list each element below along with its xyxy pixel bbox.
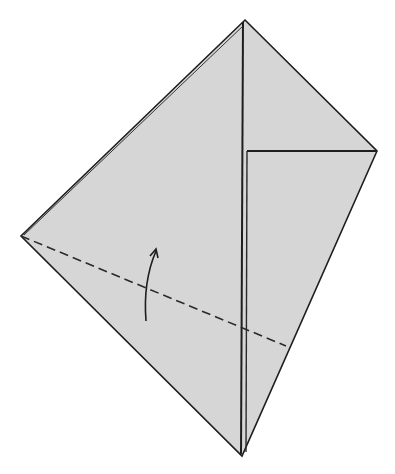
origami-diagram xyxy=(0,0,395,474)
paper-shape xyxy=(21,20,377,456)
origami-svg xyxy=(0,0,395,474)
